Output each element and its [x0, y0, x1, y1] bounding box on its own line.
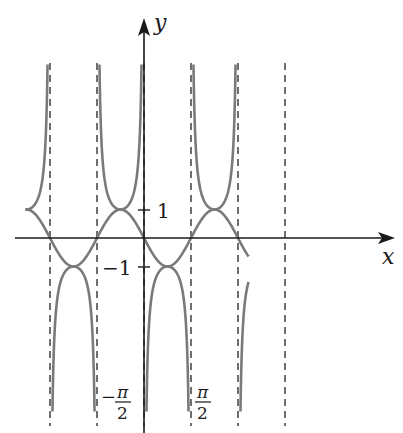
x-axis-label: x [382, 244, 395, 269]
denominator: 2 [117, 403, 128, 423]
cosecant-branch-curve [25, 64, 47, 209]
trig-graph: y x 1 −1 − π 2 π 2 [0, 0, 403, 433]
tick-label-neg-pi-over-2: − π 2 [101, 382, 131, 423]
tick-label-1: 1 [157, 199, 170, 223]
cosecant-branch-curve [99, 64, 141, 209]
cosecant-branch-curve [52, 267, 94, 412]
cosecant-branch-curve [193, 64, 235, 209]
y-axis-label: y [153, 10, 167, 35]
pi-numerator: π [116, 382, 129, 402]
tick-label-pi-over-2: π 2 [195, 382, 211, 423]
denominator: 2 [197, 403, 208, 423]
tick-label-neg1: −1 [102, 256, 131, 280]
cosecant-branch-curve [146, 267, 188, 412]
pi-numerator: π [196, 382, 209, 402]
vertical-asymptotes [50, 63, 285, 426]
cosecant-branch-curve [240, 282, 248, 412]
minus-sign: − [101, 386, 116, 407]
